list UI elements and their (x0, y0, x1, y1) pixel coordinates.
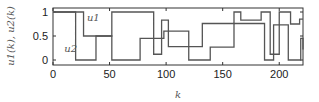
step-chart: 00.51 050100150200 u1u2 k u1(k), u2(k) (0, 0, 319, 102)
annotations: u1u2 (64, 12, 99, 55)
annotation-u2: u2 (64, 43, 77, 54)
y-axis-label: u1(k), u2(k) (5, 6, 16, 66)
x-tick-label: 200 (270, 68, 288, 80)
x-tick-label: 100 (157, 68, 175, 80)
y-tick-label: 0 (42, 54, 48, 66)
x-tick-label: 150 (214, 68, 232, 80)
x-tick-label: 0 (50, 68, 56, 80)
annotation-u1: u1 (87, 12, 100, 23)
y-tick-label: 0.5 (33, 30, 48, 42)
x-tick-label: 50 (103, 68, 115, 80)
y-tick-label: 1 (42, 6, 48, 18)
x-axis: 050100150200 (50, 8, 288, 80)
x-axis-label: k (175, 89, 181, 100)
